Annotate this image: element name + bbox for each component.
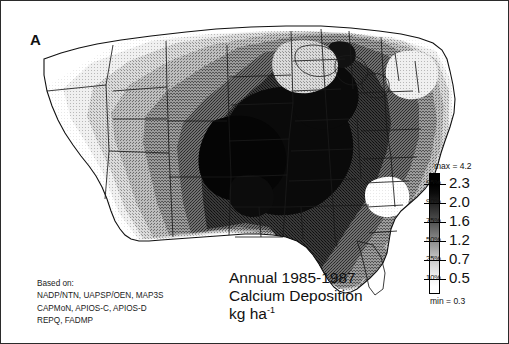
unit-base: kg ha	[229, 305, 267, 322]
legend-pct-25: 25%	[426, 254, 441, 263]
figure-panel: A Annual 1985-1987 Calcium Deposition kg…	[0, 0, 509, 344]
legend-value-95: 2.3	[449, 175, 470, 190]
panel-label: A	[30, 31, 41, 48]
legend-tickmark-95	[424, 184, 446, 185]
legend-pct-10: 10%	[426, 273, 441, 282]
legend-tickmark-75	[424, 222, 446, 223]
legend-tickmark-10	[424, 279, 446, 280]
legend-value-75: 1.6	[449, 213, 470, 228]
map-title-units: kg ha-1	[229, 305, 363, 323]
map-title-line2: Calcium Deposition	[229, 287, 363, 305]
source-heading: Based on:	[37, 278, 163, 290]
legend-pct-95: 95%	[426, 178, 441, 187]
legend: max = 4.2 95% 2.3 90% 2.0 75% 1.6 50% 1.…	[407, 161, 503, 309]
unit-exponent: -1	[267, 305, 275, 315]
legend-pct-75: 75%	[426, 216, 441, 225]
legend-value-50: 1.2	[449, 232, 470, 247]
source-line-2: CAPMoN, APIOS-C, APIOS-D	[37, 303, 163, 315]
map-title-block: Annual 1985-1987 Calcium Deposition kg h…	[229, 269, 363, 323]
map-title-line1: Annual 1985-1987	[229, 269, 363, 287]
legend-value-90: 2.0	[449, 194, 470, 209]
legend-pct-90: 90%	[426, 197, 441, 206]
legend-max-label: max = 4.2	[434, 161, 472, 171]
legend-value-25: 0.7	[449, 251, 470, 266]
legend-tickmark-90	[424, 203, 446, 204]
legend-min-label: min = 0.3	[430, 296, 465, 306]
legend-tickmark-25	[424, 260, 446, 261]
legend-value-10: 0.5	[449, 270, 470, 285]
source-line-1: NADP/NTN, UAPSP/OEN, MAP3S	[37, 290, 163, 302]
legend-tickmark-50	[424, 241, 446, 242]
source-line-3: REPQ, FADMP	[37, 315, 163, 327]
legend-pct-50: 50%	[426, 235, 441, 244]
data-source-block: Based on: NADP/NTN, UAPSP/OEN, MAP3S CAP…	[37, 278, 163, 328]
